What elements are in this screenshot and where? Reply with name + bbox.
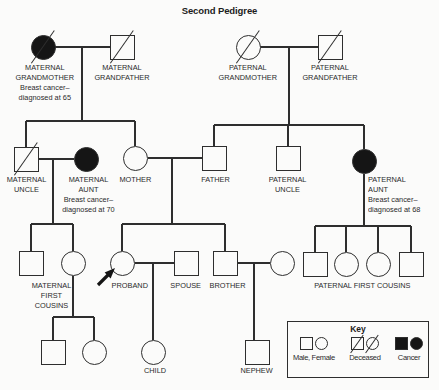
label-line: AUNT [62,185,114,195]
key-circle-filled-icon [410,337,423,350]
node-paternal-aunt-symbol [352,149,377,174]
connector-line [39,158,74,159]
connector-line [72,224,73,251]
key-entry-cancer: Cancer [395,337,423,362]
connector-line [214,124,364,125]
node-maternal-grandmother-symbol [31,35,56,60]
node-father-symbol [202,146,227,171]
label-line: BROTHER [210,281,246,291]
deceased-slash-icon [351,334,365,353]
connector-line [31,223,73,224]
connector-line [410,226,411,252]
deceased-slash-icon [236,30,260,64]
label-line: GRANDFATHER [302,73,357,83]
node-paternal-first-cousin-4-symbol [399,252,424,277]
label-line: diagnosed at 70 [62,205,114,215]
connector-line [288,47,289,125]
pedigree-canvas: Second Pedigree MATERNALGRANDMOTHERBreas… [0,0,439,390]
connector-line [121,224,122,251]
label-brother: BROTHER [168,281,288,291]
key-box: Key Male, FemaleDeceasedCancer [287,321,429,378]
label-paternal-aunt: PATERNALAUNTBreast cancer–diagnosed at 6… [368,175,425,215]
label-line: UNCLE [269,185,307,195]
key-symbols [395,337,423,350]
label-maternal-grandfather: MATERNALGRANDFATHER [62,63,182,83]
key-entries: Male, FemaleDeceasedCancer [288,334,428,362]
key-entry-label: Male, Female [293,353,335,362]
label-line: NEPHEW [241,366,273,376]
key-entry-label: Deceased [349,353,380,362]
label-line: MATERNAL [94,63,149,73]
connector-line [314,226,315,252]
label-paternal-uncle: PATERNALUNCLE [228,175,348,195]
connector-line [134,121,135,146]
deceased-slash-icon [110,30,134,64]
node-spouse-symbol [174,251,199,276]
key-circle-slashed-icon [366,337,379,350]
connector-line [25,121,26,147]
label-line: PATERNAL [302,63,357,73]
label-line: Breast cancer– [62,195,114,205]
key-symbols [351,337,379,350]
node-cousins-child-male-symbol [41,340,66,365]
node-paternal-uncle-symbol [276,146,301,171]
node-nephew-symbol [245,340,270,365]
label-paternal-grandfather: PATERNALGRANDFATHER [270,63,390,83]
deceased-slash-icon [366,334,380,353]
node-brother-symbol [213,251,238,276]
connector-line [26,120,135,121]
key-entry-male-female: Male, Female [293,337,335,362]
label-line: MOTHER [119,175,151,185]
node-maternal-aunt-symbol [74,147,99,172]
key-square-slashed-icon [351,337,364,350]
key-symbols [300,337,328,350]
node-paternal-first-cousin-1-symbol [303,252,328,277]
key-square-open-icon [300,337,313,350]
connector-line [213,125,214,146]
node-brothers-wife-symbol [270,251,295,276]
node-mother-symbol [123,146,148,171]
node-maternal-grandfather-symbol [110,35,135,60]
key-entry-label: Cancer [398,353,420,362]
label-line: PATERNAL FIRST COUSINS [314,281,410,291]
connector-line [363,125,364,149]
connector-line [345,226,346,252]
deceased-slash-icon [31,30,55,64]
label-line: FIRST [31,291,71,301]
connector-line [135,262,174,263]
connector-line [315,225,411,226]
key-title: Key [288,324,428,334]
connector-line [377,226,378,252]
figure-title: Second Pedigree [0,5,439,16]
key-circle-open-icon [315,337,328,350]
label-line: MATERNAL [31,281,71,291]
key-entry-deceased: Deceased [349,337,380,362]
label-line: PATERNAL [219,63,277,73]
label-line: Breast cancer– [16,83,74,93]
connector-line [93,317,94,340]
connector-line [148,157,202,158]
node-paternal-first-cousin-2-symbol [334,252,359,277]
connector-line [122,223,225,224]
label-line: AUNT [368,185,420,195]
node-cousins-child-female-symbol [82,340,107,365]
label-line: PATERNAL [269,175,307,185]
connector-line [152,263,153,340]
node-maternal-first-cousin-female-symbol [61,251,86,276]
connector-line [52,317,53,340]
deceased-slash-icon [318,30,342,64]
connector-line [53,316,94,317]
key-square-filled-icon [395,337,408,350]
connector-line [363,174,364,226]
label-line: Breast cancer– [368,195,420,205]
connector-line [253,263,254,340]
label-line: diagnosed at 65 [16,93,74,103]
node-maternal-first-cousin-male-symbol [19,251,44,276]
label-line: PATERNAL [368,175,420,185]
label-line: COUSINS [31,301,71,311]
label-line: GRANDMOTHER [219,73,277,83]
label-line: GRANDFATHER [94,73,149,83]
connector-line [287,125,288,146]
connector-line [171,158,172,224]
node-paternal-first-cousin-3-symbol [366,252,391,277]
